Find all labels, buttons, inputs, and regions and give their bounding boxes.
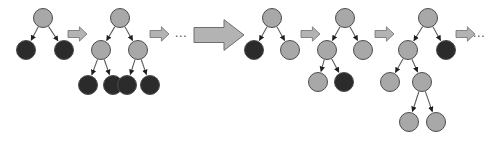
tree-edge xyxy=(104,59,109,74)
dark-node: left child xyxy=(17,41,36,60)
tree-edge xyxy=(48,26,57,40)
tree-step-5-nodes: rootleft childright childgrandchild 1gra… xyxy=(381,9,456,132)
dark-node: leaf 3 xyxy=(118,76,137,95)
tree-edge xyxy=(433,27,441,41)
dark-node: left child xyxy=(245,41,264,60)
dark-node: right child xyxy=(437,41,456,60)
gray-node: left child xyxy=(399,41,418,60)
gray-node: grandchild 2 xyxy=(413,73,432,92)
tree-step-4-nodes: rootleft childright childleaf 1leaf 2 xyxy=(309,9,373,92)
tree-nodes-layer: rootleft childright childrootleft childr… xyxy=(17,9,456,132)
tree-step-1-nodes: rootleft childright child xyxy=(17,9,74,60)
gray-node: right child xyxy=(354,41,373,60)
tree-edge xyxy=(425,91,432,111)
dark-node: right child xyxy=(55,41,74,60)
tree-step-3-nodes: rootleft childright child xyxy=(245,9,300,60)
tree-edge xyxy=(332,27,340,41)
gray-node: root xyxy=(419,9,438,28)
dark-node: leaf 4 xyxy=(141,76,160,95)
step-arrow-small xyxy=(68,27,87,41)
gray-node: leaf 1 xyxy=(309,73,328,92)
tree-step-3-edges xyxy=(259,27,284,41)
tree-edge xyxy=(414,26,423,40)
gray-node: left child xyxy=(318,41,337,60)
dark-node: leaf 1 xyxy=(79,76,98,95)
diagram-canvas: rootleft childright childrootleft childr… xyxy=(0,0,490,146)
gray-node: grandchild 1 xyxy=(381,73,400,92)
tree-edge xyxy=(92,59,98,74)
gray-node: root xyxy=(336,9,355,28)
tree-edge xyxy=(125,27,133,41)
gray-node: left child xyxy=(92,41,111,60)
tree-edge xyxy=(412,59,418,72)
gray-node: great-grandchild 2 xyxy=(427,113,446,132)
ellipsis: … xyxy=(472,25,486,40)
gray-node: right child xyxy=(129,41,148,60)
gray-node: root xyxy=(111,9,130,28)
tree-edge xyxy=(277,27,285,41)
gray-node: root xyxy=(34,9,53,28)
tree-edge xyxy=(332,59,339,72)
tree-edge xyxy=(31,27,38,40)
gray-node: root xyxy=(263,9,282,28)
ellipsis: … xyxy=(174,25,188,40)
dark-node: leaf 2 xyxy=(335,73,354,92)
gray-node: great-grandchild 1 xyxy=(400,113,419,132)
tree-edge xyxy=(130,60,135,75)
tree-edge xyxy=(350,27,358,41)
tree-edge xyxy=(412,92,419,112)
step-arrow-small xyxy=(301,27,320,41)
tree-step-2-nodes: rootleft childright childleaf 1leaf 2lea… xyxy=(79,9,160,95)
tree-step-5-edges xyxy=(395,26,440,111)
tree-growth-diagram: rootleft childright childrootleft childr… xyxy=(0,0,490,146)
gray-node: right child xyxy=(281,41,300,60)
step-arrow-small xyxy=(375,27,394,41)
step-arrow-large xyxy=(194,20,244,51)
tree-step-1-edges xyxy=(31,26,58,40)
tree-edge xyxy=(141,59,146,74)
tree-edge xyxy=(259,27,267,41)
step-arrow-small xyxy=(150,27,169,41)
tree-edge xyxy=(107,27,115,41)
tree-edge xyxy=(395,59,403,73)
tree-edge xyxy=(321,60,324,72)
